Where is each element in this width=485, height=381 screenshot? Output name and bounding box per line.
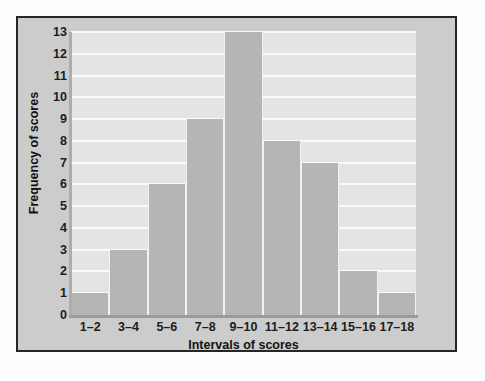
y-axis-tick-label: 13 bbox=[27, 26, 67, 39]
plot-area bbox=[71, 32, 416, 315]
bar bbox=[378, 293, 416, 315]
x-axis-tick-label: 5–6 bbox=[148, 321, 186, 334]
x-axis-tick-label: 7–8 bbox=[186, 321, 224, 334]
x-axis-tick-label: 3–4 bbox=[109, 321, 147, 334]
y-axis-tick-label: 2 bbox=[27, 265, 67, 278]
y-axis-tick-label: 0 bbox=[27, 309, 67, 322]
x-axis-tick-label: 1–2 bbox=[71, 321, 109, 334]
y-axis-tick-label: 3 bbox=[27, 244, 67, 257]
y-axis-tick-label: 12 bbox=[27, 48, 67, 61]
bar bbox=[301, 163, 339, 315]
bar-series bbox=[71, 32, 416, 315]
bar bbox=[224, 32, 262, 315]
bar bbox=[109, 250, 147, 315]
bar bbox=[186, 119, 224, 315]
y-axis-title: Frequency of scores bbox=[27, 73, 41, 233]
figure-container: 012345678910111213 Frequency of scores 1… bbox=[0, 0, 485, 381]
x-axis-tick-label: 17–18 bbox=[378, 321, 416, 334]
chart-frame: 012345678910111213 Frequency of scores 1… bbox=[16, 16, 457, 352]
x-axis-tick-label: 13–14 bbox=[301, 321, 339, 334]
bar bbox=[148, 184, 186, 315]
bar bbox=[263, 141, 301, 315]
bar bbox=[339, 271, 377, 315]
x-axis-ticks: 1–23–45–67–89–1011–1213–1415–1617–18 bbox=[71, 321, 416, 339]
y-axis-line bbox=[69, 32, 72, 317]
x-axis-title: Intervals of scores bbox=[71, 338, 416, 352]
bar bbox=[71, 293, 109, 315]
x-axis-tick-label: 15–16 bbox=[339, 321, 377, 334]
x-axis-tick-label: 9–10 bbox=[224, 321, 262, 334]
chart-panel: 012345678910111213 Frequency of scores 1… bbox=[18, 18, 455, 350]
x-axis-tick-label: 11–12 bbox=[263, 321, 301, 334]
x-axis-line bbox=[69, 315, 418, 318]
y-axis-tick-label: 1 bbox=[27, 287, 67, 300]
